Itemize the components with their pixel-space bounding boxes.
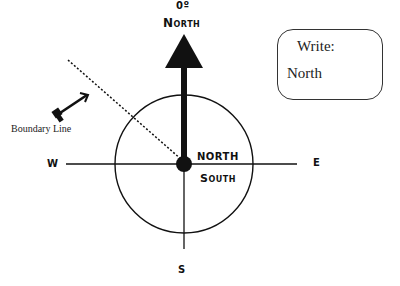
north-arrowhead: [165, 34, 203, 68]
write-answer: North: [287, 65, 322, 82]
north-arrow-shaft: [181, 66, 187, 164]
write-prompt: Write:: [297, 38, 335, 55]
boundary-line-label: Boundary Line: [11, 123, 71, 134]
west-label: W: [47, 158, 59, 169]
north-title-label: North: [163, 16, 200, 30]
east-label: E: [313, 157, 320, 168]
write-answer-box: Write: North: [277, 29, 383, 100]
boundary-pointer-arrow-icon: [51, 93, 88, 122]
center-south-label: South: [200, 172, 236, 185]
center-dot: [176, 156, 192, 172]
boundary-line: [68, 60, 182, 160]
center-north-label: NORTH: [197, 151, 239, 162]
degree-label: 0º: [176, 0, 190, 11]
south-label: S: [178, 264, 186, 275]
